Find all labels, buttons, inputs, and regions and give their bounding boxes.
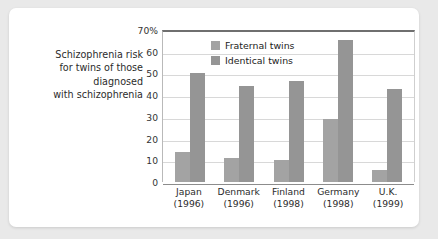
x-tick-country: U.K. xyxy=(379,186,398,197)
y-tick-label: 0 xyxy=(127,177,158,188)
caption-line-4: with schizophrenia xyxy=(21,88,143,101)
y-axis-labels: 010203040506070% xyxy=(127,30,158,182)
x-tick-year: (1998) xyxy=(264,198,314,210)
x-tick-country: Japan xyxy=(176,186,202,197)
bar-identical xyxy=(387,89,402,182)
chart-caption: Schizophrenia risk for twins of those di… xyxy=(21,48,143,102)
bar-group xyxy=(313,32,362,182)
x-axis-labels: Japan(1996)Denmark(1996)Finland(1998)Ger… xyxy=(162,186,415,211)
x-tick-label: Finland(1998) xyxy=(264,186,314,211)
x-tick-year: (1996) xyxy=(164,198,214,210)
legend-swatch-icon-fraternal xyxy=(211,41,220,50)
bar-identical xyxy=(289,81,304,182)
y-tick-label: 20 xyxy=(127,133,158,144)
legend-swatch-icon-identical xyxy=(211,56,220,65)
y-tick-label: 50 xyxy=(127,68,158,79)
y-tick-label: 30 xyxy=(127,111,158,122)
caption-line-2: for twins of those xyxy=(21,61,143,74)
legend-item-fraternal: Fraternal twins xyxy=(211,40,295,51)
bar-fraternal xyxy=(224,158,239,182)
plot-area: Fraternal twins Identical twins xyxy=(162,30,415,182)
y-tick-label: 70% xyxy=(127,25,158,36)
x-tick-year: (1996) xyxy=(214,198,264,210)
bar-fraternal xyxy=(372,170,387,182)
legend-label-identical: Identical twins xyxy=(225,55,293,66)
x-tick-label: U.K.(1999) xyxy=(363,186,413,211)
caption-line-1: Schizophrenia risk xyxy=(21,48,143,61)
y-tick-label: 60 xyxy=(127,46,158,57)
chart-card: Schizophrenia risk for twins of those di… xyxy=(9,8,419,227)
bar-identical xyxy=(338,40,353,182)
bar-fraternal xyxy=(323,119,338,182)
gridline xyxy=(163,184,414,185)
y-tick-label: 40 xyxy=(127,90,158,101)
bar-group xyxy=(165,32,214,182)
x-tick-year: (1999) xyxy=(363,198,413,210)
x-tick-country: Finland xyxy=(272,186,305,197)
x-tick-country: Denmark xyxy=(218,186,260,197)
y-tick-label: 10 xyxy=(127,155,158,166)
bar-identical xyxy=(190,73,205,182)
chart-legend: Fraternal twins Identical twins xyxy=(211,40,295,70)
bar-fraternal xyxy=(175,152,190,182)
bar-fraternal xyxy=(274,160,289,182)
bar-identical xyxy=(239,86,254,182)
bar-chart: 010203040506070% Fraternal twins Identic… xyxy=(127,30,415,220)
x-tick-label: Japan(1996) xyxy=(164,186,214,211)
x-tick-country: Germany xyxy=(317,186,359,197)
legend-label-fraternal: Fraternal twins xyxy=(225,40,295,51)
bar-group xyxy=(363,32,412,182)
caption-line-3: diagnosed xyxy=(21,75,143,88)
legend-item-identical: Identical twins xyxy=(211,55,295,66)
x-tick-label: Germany(1998) xyxy=(313,186,363,211)
x-tick-label: Denmark(1996) xyxy=(214,186,264,211)
x-tick-year: (1998) xyxy=(313,198,363,210)
